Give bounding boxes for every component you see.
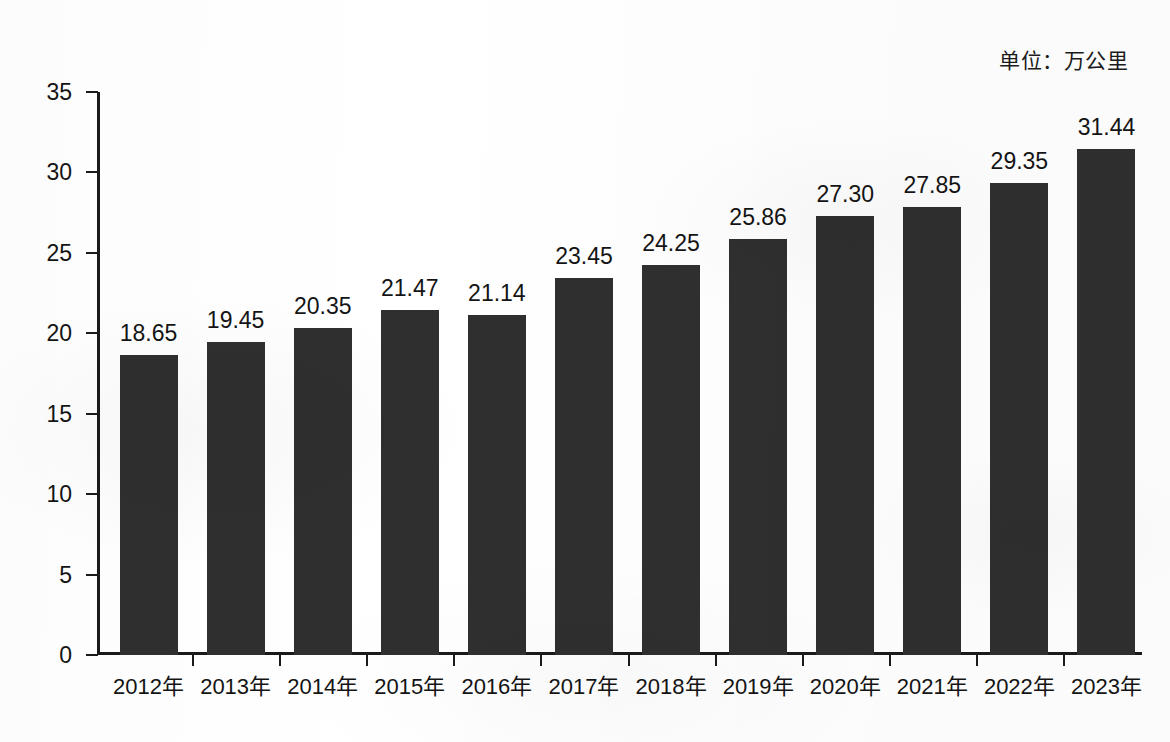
- bar-value-label: 27.30: [816, 181, 874, 208]
- bar-group[interactable]: 21.14: [468, 315, 526, 655]
- bar-value-label: 18.65: [120, 320, 178, 347]
- bar[interactable]: [120, 355, 178, 655]
- x-tick: [715, 654, 717, 666]
- bar-group[interactable]: 31.44: [1077, 149, 1135, 655]
- x-tick: [1063, 654, 1065, 666]
- x-tick: [976, 654, 978, 666]
- plot-area: 35302520151050 18.6519.4520.3521.4721.14…: [97, 92, 1142, 655]
- bar-value-label: 29.35: [991, 148, 1049, 175]
- bar-group[interactable]: 21.47: [381, 310, 439, 655]
- x-tick: [540, 654, 542, 666]
- bar-group[interactable]: 24.25: [642, 265, 700, 655]
- y-tick-label: 25: [46, 239, 72, 266]
- bar[interactable]: [903, 207, 961, 655]
- x-axis-category-label: 2017年: [540, 668, 627, 700]
- x-tick: [802, 654, 804, 666]
- x-axis-category-label: 2015年: [366, 668, 453, 700]
- x-axis-category-label: 2013年: [192, 668, 279, 700]
- bar-value-label: 27.85: [904, 172, 962, 199]
- bar[interactable]: [555, 278, 613, 655]
- x-axis-category-label: 2022年: [976, 668, 1063, 700]
- bar[interactable]: [816, 216, 874, 655]
- y-tick-label: 15: [46, 400, 72, 427]
- bar-value-label: 20.35: [294, 293, 352, 320]
- bar[interactable]: [990, 183, 1048, 655]
- bar-value-label: 21.47: [381, 275, 439, 302]
- x-tick: [192, 654, 194, 666]
- x-axis-category-label: 2014年: [279, 668, 366, 700]
- bars-layer: 18.6519.4520.3521.4721.1423.4524.2525.86…: [97, 92, 1142, 655]
- y-tick-label: 20: [46, 320, 72, 347]
- x-tick: [628, 654, 630, 666]
- bar[interactable]: [1077, 149, 1135, 655]
- bar[interactable]: [642, 265, 700, 655]
- bar-value-label: 21.14: [468, 280, 526, 307]
- bar-value-label: 23.45: [555, 243, 613, 270]
- x-tick: [453, 654, 455, 666]
- bar-group[interactable]: 20.35: [294, 328, 352, 655]
- bar[interactable]: [294, 328, 352, 655]
- bar-value-label: 25.86: [729, 204, 787, 231]
- bar-group[interactable]: 19.45: [207, 342, 265, 655]
- y-tick-label: 5: [59, 561, 72, 588]
- y-tick-label: 10: [46, 481, 72, 508]
- y-tick-label: 0: [59, 642, 72, 669]
- x-axis-category-label: 2023年: [1063, 668, 1150, 700]
- x-tick: [366, 654, 368, 666]
- bar-value-label: 19.45: [207, 307, 265, 334]
- bar[interactable]: [729, 239, 787, 655]
- y-tick-label: 35: [46, 79, 72, 106]
- bar-chart: 单位：万公里 35302520151050 18.6519.4520.3521.…: [0, 0, 1170, 742]
- bar-group[interactable]: 25.86: [729, 239, 787, 655]
- x-axis-category-label: 2020年: [802, 668, 889, 700]
- bar[interactable]: [207, 342, 265, 655]
- x-axis-category-label: 2019年: [715, 668, 802, 700]
- x-tick: [889, 654, 891, 666]
- bar-group[interactable]: 29.35: [990, 183, 1048, 655]
- x-axis-category-label: 2012年: [105, 668, 192, 700]
- bar[interactable]: [381, 310, 439, 655]
- x-axis-labels: 2012年2013年2014年2015年2016年2017年2018年2019年…: [97, 668, 1142, 704]
- x-tick: [279, 654, 281, 666]
- bar-value-label: 24.25: [642, 230, 700, 257]
- bar-group[interactable]: 18.65: [120, 355, 178, 655]
- bar-value-label: 31.44: [1078, 114, 1136, 141]
- bar-group[interactable]: 27.30: [816, 216, 874, 655]
- bar-group[interactable]: 23.45: [555, 278, 613, 655]
- y-tick-label: 30: [46, 159, 72, 186]
- bar-group[interactable]: 27.85: [903, 207, 961, 655]
- x-axis-category-label: 2018年: [628, 668, 715, 700]
- x-axis-category-label: 2016年: [453, 668, 540, 700]
- bar[interactable]: [468, 315, 526, 655]
- unit-caption: 单位：万公里: [999, 44, 1128, 74]
- x-axis-category-label: 2021年: [889, 668, 976, 700]
